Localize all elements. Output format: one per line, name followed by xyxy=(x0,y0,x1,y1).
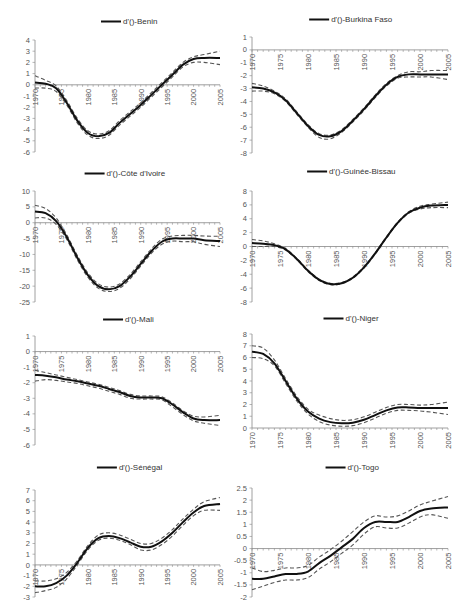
x-tick-label: 1990 xyxy=(137,356,146,373)
y-tick-label: 0 xyxy=(243,544,247,553)
upper-band-line xyxy=(252,202,448,283)
x-tick-label: 1970 xyxy=(31,356,40,373)
y-tick-label: 6 xyxy=(26,496,30,505)
y-tick-label: 3 xyxy=(26,528,30,537)
y-tick-label: -4 xyxy=(240,270,247,279)
y-tick-label: 2 xyxy=(243,496,247,505)
x-tick-label: 2005 xyxy=(444,553,453,570)
y-tick-label: -4 xyxy=(240,97,247,106)
y-tick-label: -1 xyxy=(23,571,30,580)
x-tick-label: 1985 xyxy=(110,569,119,586)
chart-panel-1: d'()-Burkina Faso10-1-2-3-4-5-6-7-819701… xyxy=(240,15,452,158)
x-tick-label: 2000 xyxy=(416,251,425,268)
y-tick-label: -1 xyxy=(23,92,30,101)
legend-label: d'()-Togo xyxy=(348,463,380,472)
x-tick-label: 2005 xyxy=(444,251,453,268)
x-tick-label: 1995 xyxy=(163,569,172,586)
y-tick-label: 0 xyxy=(243,45,247,54)
y-tick-label: 7 xyxy=(243,341,247,350)
y-tick-label: 7 xyxy=(26,486,30,495)
x-tick-label: 1995 xyxy=(388,432,397,449)
x-tick-label: 2000 xyxy=(416,54,425,71)
y-tick-label: -7 xyxy=(240,136,247,145)
legend-label: d'()-Niger xyxy=(346,314,379,323)
y-tick-label: 4 xyxy=(26,518,30,527)
x-tick-label: 1985 xyxy=(332,432,341,449)
lower-band-line xyxy=(252,515,448,590)
y-tick-label: 8 xyxy=(243,330,247,339)
x-tick-label: 1975 xyxy=(276,432,285,449)
y-tick-label: -4 xyxy=(23,125,30,134)
x-tick-label: 1975 xyxy=(57,356,66,373)
y-tick-label: 0 xyxy=(26,80,30,89)
y-tick-label: -8 xyxy=(240,149,247,158)
y-tick-label: 2.5 xyxy=(237,484,247,493)
x-tick-label: 1970 xyxy=(31,227,40,244)
upper-band-line xyxy=(35,497,220,581)
x-tick-label: 2005 xyxy=(444,432,453,449)
upper-band-line xyxy=(35,370,220,417)
y-tick-label: 4 xyxy=(243,377,247,386)
y-tick-label: 0 xyxy=(243,424,247,433)
x-tick-label: 1995 xyxy=(163,89,172,106)
x-tick-label: 2000 xyxy=(416,432,425,449)
y-tick-label: -2 xyxy=(240,593,247,602)
y-tick-label: -5 xyxy=(23,425,30,434)
x-tick-label: 2005 xyxy=(216,356,225,373)
x-tick-label: 1990 xyxy=(360,54,369,71)
legend-label: d'()-Benin xyxy=(123,17,157,26)
y-tick-label: -3 xyxy=(23,394,30,403)
x-tick-label: 1970 xyxy=(31,89,40,106)
x-tick-label: 2005 xyxy=(444,54,453,71)
y-tick-label: -20 xyxy=(19,282,30,291)
chart-panel-5: d'()-Niger876543210197019751980198519901… xyxy=(243,314,453,449)
y-tick-label: 5 xyxy=(243,365,247,374)
y-tick-label: 0 xyxy=(243,242,247,251)
legend-label: d'()-Côte d'Ivoire xyxy=(107,169,166,178)
y-tick-label: -6 xyxy=(23,148,30,157)
x-tick-label: 1970 xyxy=(248,250,257,267)
legend-label: d'()-Mali xyxy=(125,315,154,324)
x-tick-label: 1990 xyxy=(360,432,369,449)
y-tick-label: 3 xyxy=(26,47,30,56)
chart-panel-0: d'()-Benin43210-1-2-3-4-5-61970197519801… xyxy=(23,17,224,157)
x-tick-label: 1985 xyxy=(332,251,341,268)
x-tick-label: 1970 xyxy=(248,54,257,71)
x-tick-label: 1980 xyxy=(304,251,313,268)
y-tick-label: 1.5 xyxy=(237,508,247,517)
x-tick-label: 1980 xyxy=(304,432,313,449)
x-tick-label: 1970 xyxy=(248,553,257,570)
main-series-line xyxy=(252,74,448,136)
x-tick-label: 1990 xyxy=(360,553,369,570)
y-tick-label: -8 xyxy=(240,298,247,307)
x-tick-label: 1995 xyxy=(163,356,172,373)
y-tick-label: -10 xyxy=(19,250,30,259)
y-tick-label: 0 xyxy=(26,218,30,227)
x-tick-label: 2000 xyxy=(189,89,198,106)
y-tick-label: 1 xyxy=(243,412,247,421)
y-tick-label: -5 xyxy=(23,234,30,243)
y-tick-label: -1 xyxy=(240,58,247,67)
upper-band-line xyxy=(35,205,220,287)
y-tick-label: -2 xyxy=(23,103,30,112)
x-tick-label: 1970 xyxy=(31,569,40,586)
y-tick-label: 5 xyxy=(26,507,30,516)
y-tick-label: 6 xyxy=(243,200,247,209)
y-tick-label: -1 xyxy=(23,363,30,372)
main-series-line xyxy=(252,352,448,424)
y-tick-label: 4 xyxy=(243,214,247,223)
y-tick-label: 2 xyxy=(26,539,30,548)
x-tick-label: 1985 xyxy=(110,227,119,244)
main-series-line xyxy=(252,205,448,284)
x-tick-label: 2005 xyxy=(216,89,225,106)
y-tick-label: 10 xyxy=(22,187,30,196)
x-tick-label: 1980 xyxy=(304,54,313,71)
lower-band-line xyxy=(252,77,448,140)
y-tick-label: 2 xyxy=(243,400,247,409)
y-tick-label: -6 xyxy=(240,123,247,132)
legend-label: d'()-Burkina Faso xyxy=(331,15,393,24)
x-tick-label: 1980 xyxy=(84,89,93,106)
x-tick-label: 1980 xyxy=(84,227,93,244)
y-tick-label: -2 xyxy=(23,378,30,387)
x-tick-label: 1975 xyxy=(276,54,285,71)
